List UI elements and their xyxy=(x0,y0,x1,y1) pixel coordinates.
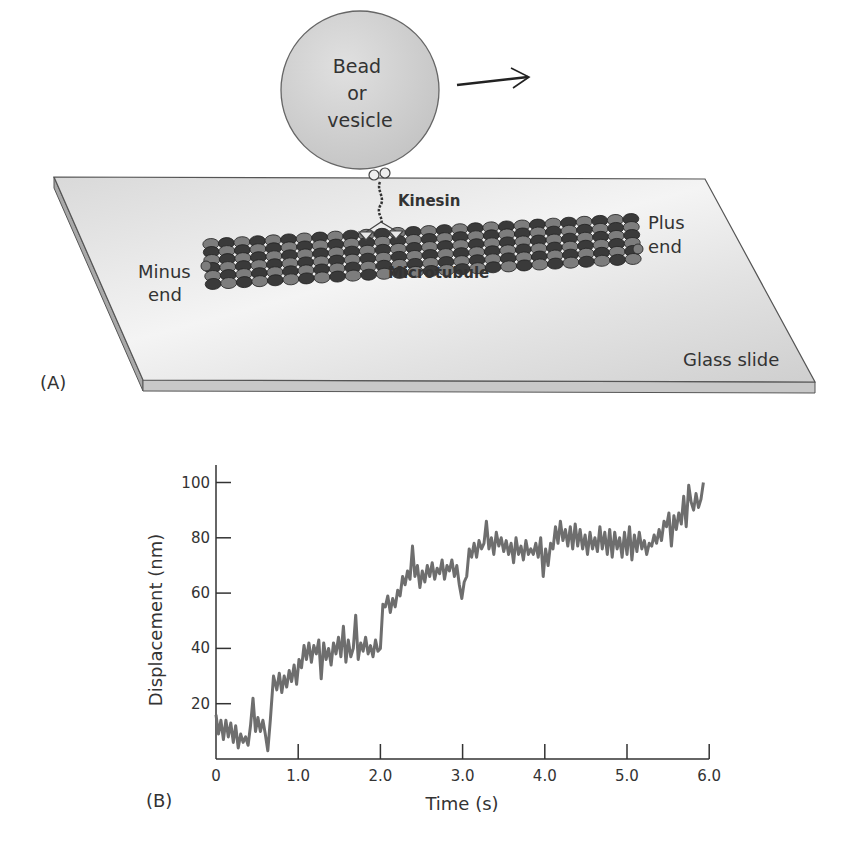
x-tick-label: 0 xyxy=(211,767,221,785)
figure-canvas: Bead or vesicle Kinesin Microtubule Minu… xyxy=(0,0,845,847)
y-tick-label: 20 xyxy=(191,695,210,713)
panel-b-chart: 01.02.03.04.05.06.020406080100 Time (s) … xyxy=(145,465,721,814)
x-tick-label: 4.0 xyxy=(533,767,557,785)
x-tick-label: 5.0 xyxy=(615,767,639,785)
y-tick-label: 100 xyxy=(181,474,210,492)
panel-a: Bead or vesicle Kinesin Microtubule Minu… xyxy=(40,11,815,393)
direction-arrow-icon xyxy=(457,68,529,88)
x-tick-label: 2.0 xyxy=(368,767,392,785)
glass-slide-label: Glass slide xyxy=(683,349,779,370)
x-tick-label: 1.0 xyxy=(286,767,310,785)
microtubule-label: Microtubule xyxy=(388,264,489,282)
y-axis-label: Displacement (nm) xyxy=(145,534,166,706)
panel-a-label: (A) xyxy=(40,372,66,393)
x-axis-label: Time (s) xyxy=(424,793,498,814)
kinesin-label: Kinesin xyxy=(398,192,460,210)
panel-b-label: (B) xyxy=(146,790,172,811)
y-tick-label: 60 xyxy=(191,584,210,602)
x-tick-label: 3.0 xyxy=(451,767,475,785)
x-tick-label: 6.0 xyxy=(697,767,721,785)
displacement-trace xyxy=(216,483,703,751)
y-tick-label: 40 xyxy=(191,639,210,657)
y-tick-label: 80 xyxy=(191,529,210,547)
chart-axes: 01.02.03.04.05.06.020406080100 xyxy=(181,465,721,785)
